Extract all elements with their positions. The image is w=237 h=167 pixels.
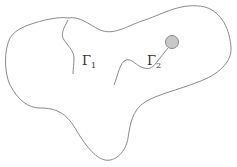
diagram-canvas: [0, 0, 237, 167]
gamma-1-subscript: 1: [91, 61, 96, 70]
curve-gamma-1: [62, 20, 74, 74]
gamma-2-base: Γ: [147, 53, 156, 68]
label-gamma-1: Γ1: [82, 54, 96, 70]
gamma-2-subscript: 2: [156, 61, 161, 70]
small-disk: [166, 36, 179, 49]
label-gamma-2: Γ2: [147, 54, 161, 70]
gamma-1-base: Γ: [82, 53, 91, 68]
outer-boundary: [6, 6, 232, 161]
